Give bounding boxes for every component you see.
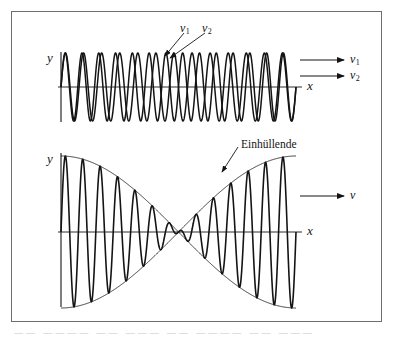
top-arrow-label-v1-base: v [350, 52, 355, 66]
caption-strip: —— ———— —— ——— —— ———— —— ——— [14, 327, 380, 339]
envelope-callout-line [222, 147, 238, 172]
bottom-arrow-label-v: v [350, 189, 355, 201]
top-plot-group [58, 33, 344, 122]
figure-drawing [0, 0, 394, 341]
bottom-plot-group [58, 147, 344, 308]
top-y-axis-label: y [47, 51, 53, 64]
top-arrow-label-v2-sub: 2 [356, 74, 360, 83]
beat-resultant-wave [61, 156, 296, 308]
callout-label-v1-sub: 1 [186, 27, 190, 36]
top-arrow-label-v2-base: v [350, 68, 355, 82]
bottom-arrow-label-v-base: v [350, 188, 355, 202]
bottom-y-axis-label: y [47, 152, 53, 165]
bottom-x-axis-label: x [307, 224, 313, 237]
top-x-axis-label: x [307, 79, 313, 92]
envelope-label: Einhüllende [241, 139, 297, 151]
callout-label-v2-base: v [202, 21, 207, 35]
callout-label-v1-base: v [180, 21, 185, 35]
top-arrow-label-v2: v2 [350, 69, 359, 81]
top-arrow-label-v1: v1 [350, 53, 359, 65]
top-arrow-label-v1-sub: 1 [356, 58, 360, 67]
figure-root: y x v1 v2 v1 v2 y x Einhüllende v —— ———… [0, 0, 394, 341]
callout-label-v2: v2 [202, 22, 211, 34]
callout-label-v2-sub: 2 [208, 27, 212, 36]
callout-label-v1: v1 [180, 22, 189, 34]
